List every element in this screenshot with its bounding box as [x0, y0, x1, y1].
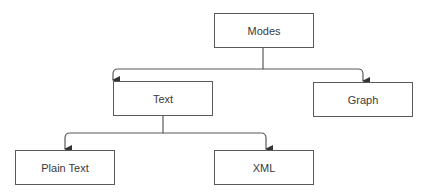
edge-modes-graph	[263, 69, 363, 81]
node-plain-text[interactable]: Plain Text	[15, 150, 115, 185]
node-label: Graph	[348, 94, 379, 106]
node-label: Text	[153, 93, 173, 105]
node-text[interactable]: Text	[113, 81, 213, 116]
edge-modes-text	[113, 48, 263, 80]
node-label: Modes	[247, 25, 280, 37]
node-xml[interactable]: XML	[214, 150, 314, 185]
node-label: XML	[253, 162, 276, 174]
node-graph[interactable]: Graph	[313, 82, 413, 117]
edge-text-xml	[163, 133, 266, 149]
edge-text-plaintext	[65, 116, 163, 149]
node-modes[interactable]: Modes	[214, 13, 314, 48]
node-label: Plain Text	[41, 162, 89, 174]
